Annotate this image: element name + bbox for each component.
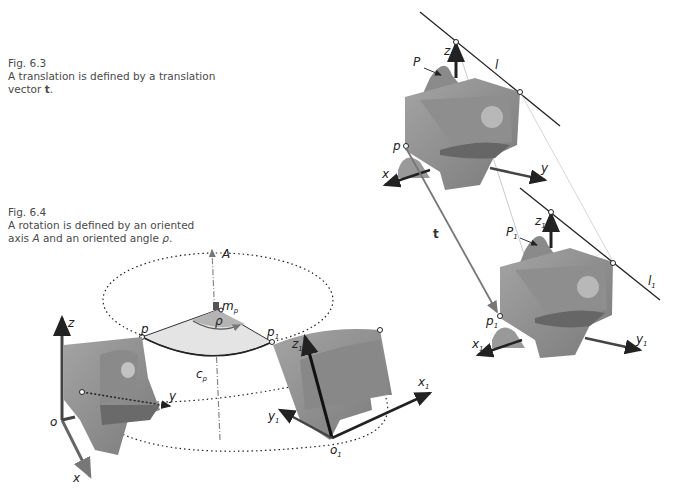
label-cp: cp [196, 367, 208, 383]
point-marker [80, 390, 85, 395]
label-rho: ρ [215, 314, 223, 328]
label-y: y [540, 161, 549, 175]
label-x1: x1 [471, 337, 484, 353]
label-mp: mp [222, 299, 239, 315]
label-y1: y1 [635, 332, 648, 348]
label-y: y [168, 389, 177, 403]
label-x: x [72, 471, 81, 485]
point-marker [549, 210, 554, 215]
label-x1: x1 [417, 375, 430, 391]
label-p: p [392, 139, 401, 153]
diagram-canvas: z P l p x y t z1 P1 l1 p1 x1 y1 [0, 0, 681, 503]
label-z: z [443, 44, 451, 58]
right-angle-marker [213, 302, 219, 310]
label-P1: P1 [506, 225, 518, 241]
point-marker [454, 40, 459, 45]
solid-part-rotated [273, 329, 392, 440]
point-p1 [498, 314, 503, 319]
solid-part-original [64, 337, 160, 455]
label-p1: p1 [266, 325, 279, 341]
label-o: o [50, 415, 57, 429]
label-P: P [413, 55, 421, 69]
label-l1: l1 [648, 274, 656, 290]
label-z: z [67, 316, 75, 330]
point-p [404, 144, 409, 149]
label-t: t [433, 227, 439, 241]
point-marker [611, 261, 616, 266]
point-marker [518, 90, 523, 95]
label-A: A [221, 247, 230, 261]
label-l: l [495, 58, 499, 72]
rotation-figure: A mp ρ p p1 cp z y o x [50, 247, 430, 485]
label-p: p [140, 322, 149, 336]
label-y1: y1 [267, 409, 280, 425]
point-marker [378, 328, 383, 333]
label-p1: p1 [485, 314, 498, 330]
label-z1: z1 [534, 214, 546, 230]
origin-stub [62, 417, 75, 420]
translation-figure: z P l p x y t z1 P1 l1 p1 x1 y1 [381, 12, 660, 358]
label-x: x [381, 167, 390, 181]
y1-axis [585, 338, 640, 350]
label-o1: o1 [330, 443, 342, 459]
